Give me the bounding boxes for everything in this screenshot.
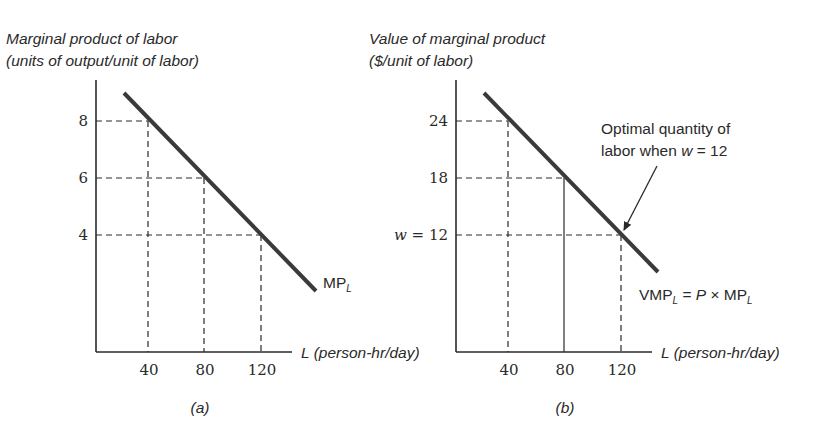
- panel-a-ytick-6: 6: [78, 169, 88, 187]
- panel-a-xtick-120: 120: [248, 361, 277, 379]
- panel-a-ref-40-8: [96, 121, 148, 352]
- panel-a-xtick-80: 80: [195, 361, 214, 379]
- panel-b-ylabel-line2: ($/unit of labor): [369, 52, 473, 69]
- panel-a-xlabel: L (person-hr/day): [301, 344, 420, 361]
- panel-a: Marginal product of labor (units of outp…: [6, 30, 420, 416]
- panel-a-ytick-4: 4: [78, 226, 88, 244]
- panel-b: Value of marginal product ($/unit of lab…: [369, 30, 780, 416]
- panel-b-ylabel-line1: Value of marginal product: [369, 30, 546, 47]
- optimal-annotation-line2: labor when w = 12: [601, 142, 727, 159]
- panel-b-xlabel: L (person-hr/day): [661, 344, 780, 361]
- mpl-label: MPL: [323, 274, 352, 294]
- panel-b-ref-40-24: [456, 121, 508, 352]
- panel-b-ytick-w12: w = 12: [394, 226, 448, 244]
- panel-b-xtick-80: 80: [555, 361, 574, 379]
- panel-b-xtick-120: 120: [608, 361, 637, 379]
- panel-a-ytick-8: 8: [78, 112, 88, 130]
- vmpl-label: VMPL = P × MPL: [639, 286, 753, 306]
- mpl-curve: [124, 93, 316, 291]
- panel-b-xtick-40: 40: [499, 361, 518, 379]
- panel-b-ytick-24: 24: [429, 112, 448, 130]
- panel-b-label: (b): [556, 399, 575, 416]
- optimal-arrow-icon: [624, 166, 657, 230]
- panel-a-ref-80-6: [96, 178, 204, 352]
- chart-figure: Marginal product of labor (units of outp…: [0, 0, 837, 438]
- panel-a-label: (a): [191, 399, 210, 416]
- panel-a-xtick-40: 40: [139, 361, 158, 379]
- panel-a-ref-120-4: [96, 235, 261, 352]
- panel-a-ylabel-line1: Marginal product of labor: [6, 30, 178, 47]
- panel-a-ylabel-line2: (units of output/unit of labor): [6, 52, 199, 69]
- panel-b-ytick-18: 18: [429, 169, 448, 187]
- panel-b-ref-120-12: [456, 235, 621, 352]
- optimal-annotation-line1: Optimal quantity of: [601, 120, 731, 137]
